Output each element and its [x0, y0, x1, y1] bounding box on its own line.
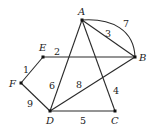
- node-label-B: B: [138, 52, 146, 63]
- edge-weight-E-B: 2: [54, 46, 60, 57]
- edge-F-D: [21, 83, 50, 111]
- node-F: [20, 82, 23, 85]
- edge-weight-A-B-arc: 7: [123, 18, 129, 29]
- edge-weight-A-B-straight: 3: [105, 28, 111, 39]
- node-A: [81, 19, 84, 22]
- edge-D-B: [50, 57, 135, 111]
- node-E: [42, 56, 45, 59]
- node-label-F: F: [8, 78, 17, 89]
- edge-A-D: [50, 20, 82, 111]
- node-label-A: A: [77, 6, 85, 17]
- node-D: [49, 110, 52, 113]
- node-C: [114, 110, 117, 113]
- node-label-D: D: [45, 115, 54, 126]
- edge-weight-D-B: 8: [76, 79, 82, 90]
- edge-weight-F-E: 1: [23, 64, 29, 75]
- weighted-graph-diagram: A B C D E F 1 2 3 4 5 6 7 8 9: [0, 0, 153, 130]
- node-label-E: E: [38, 42, 47, 53]
- edge-weight-A-C: 4: [113, 85, 119, 96]
- edge-weight-D-C: 5: [80, 115, 86, 126]
- node-label-C: C: [111, 115, 119, 126]
- edge-weight-A-D: 6: [49, 80, 55, 91]
- edge-weight-F-D: 9: [27, 98, 33, 109]
- node-B: [134, 56, 137, 59]
